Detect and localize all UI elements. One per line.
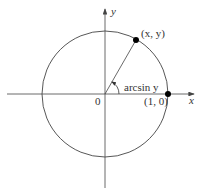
point-1-0-label: (1, 0) (144, 95, 168, 108)
angle-arc-arrow (112, 82, 119, 94)
unit-circle-diagram: y x (x, y) (1, 0) 0 arcsin y (0, 0, 203, 196)
point-xy-label: (x, y) (141, 27, 165, 40)
point-xy (133, 37, 139, 43)
unit-circle-figure: y x (x, y) (1, 0) 0 arcsin y (0, 0, 203, 196)
origin-label: 0 (95, 95, 101, 107)
angle-label: arcsin y (124, 81, 159, 93)
x-axis-label: x (188, 94, 194, 106)
y-axis-label: y (110, 5, 116, 17)
